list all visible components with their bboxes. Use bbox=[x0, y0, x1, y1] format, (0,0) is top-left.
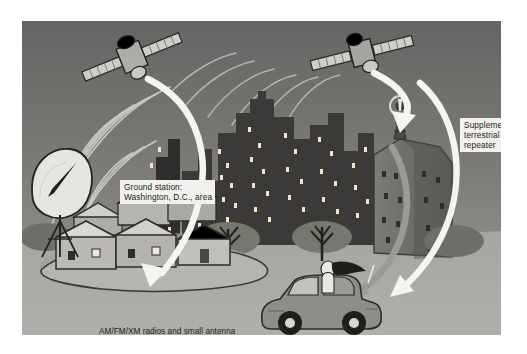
caption-block: AM/FM/XM radios and small antenna receiv… bbox=[99, 303, 259, 335]
figure-root: Ground station: Washington, D.C., area S… bbox=[0, 0, 527, 354]
callout-ground-station-line1: Ground station: bbox=[124, 182, 182, 192]
illustration-panel: Ground station: Washington, D.C., area S… bbox=[22, 21, 501, 335]
callout-ground-station-line2: Washington, D.C., area bbox=[124, 192, 212, 202]
scene-illustration bbox=[22, 21, 501, 335]
callout-repeater-line2: terrestrial bbox=[464, 130, 500, 140]
callout-repeater: Supplemental terrestrial repeater bbox=[460, 118, 501, 152]
callout-repeater-line3: repeater bbox=[464, 140, 496, 150]
callout-repeater-line1: Supplemental bbox=[464, 120, 501, 130]
callout-ground-station: Ground station: Washington, D.C., area bbox=[120, 180, 215, 204]
caption-line-1: AM/FM/XM radios and small antenna bbox=[99, 326, 259, 335]
